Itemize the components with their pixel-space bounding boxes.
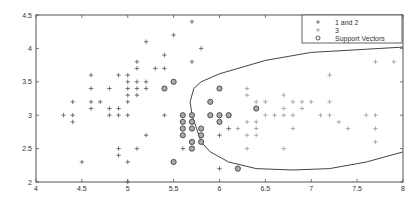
support-vector-marker xyxy=(208,99,213,104)
y-tick-label: 3.5 xyxy=(22,78,32,85)
support-vector-marker xyxy=(180,126,185,131)
support-vector-marker xyxy=(180,113,185,118)
support-vector-marker xyxy=(226,113,231,118)
support-vector-marker xyxy=(162,86,167,91)
x-tick-label: 4.5 xyxy=(77,185,87,192)
support-vector-marker xyxy=(199,133,204,138)
x-tick-label: 7.5 xyxy=(352,185,362,192)
support-vector-marker xyxy=(217,86,222,91)
y-tick-label: 2 xyxy=(28,179,32,186)
x-tick-label: 6 xyxy=(218,185,222,192)
y-tick-label: 2.5 xyxy=(22,145,32,152)
support-vector-marker xyxy=(254,106,259,111)
support-vector-marker xyxy=(171,79,176,84)
support-vector-marker xyxy=(189,139,194,144)
legend-label: Support Vectors xyxy=(335,35,385,43)
legend-label: 1 and 2 xyxy=(335,19,358,26)
support-vector-marker xyxy=(217,113,222,118)
support-vector-marker xyxy=(199,126,204,131)
support-vector-marker xyxy=(189,126,194,131)
support-vector-marker xyxy=(189,119,194,124)
support-vector-marker xyxy=(180,119,185,124)
support-vector-marker xyxy=(208,113,213,118)
x-tick-label: 5.5 xyxy=(169,185,179,192)
support-vector-marker xyxy=(180,133,185,138)
x-tick-label: 7 xyxy=(309,185,313,192)
legend-label: 3 xyxy=(335,27,339,34)
y-tick-label: 4 xyxy=(28,45,32,52)
x-tick-label: 4 xyxy=(34,185,38,192)
x-tick-label: 5 xyxy=(126,185,130,192)
support-vector-marker xyxy=(199,139,204,144)
x-tick-label: 6.5 xyxy=(261,185,271,192)
y-tick-label: 3 xyxy=(28,112,32,119)
support-vector-marker xyxy=(217,119,222,124)
legend: 1 and 23Support Vectors xyxy=(302,15,402,43)
support-vector-marker xyxy=(171,159,176,164)
support-vector-marker xyxy=(189,113,194,118)
x-tick-label: 8 xyxy=(401,185,405,192)
y-tick-label: 4.5 xyxy=(22,12,32,19)
svm-scatter-chart: 44.555.566.577.5822.533.544.5 1 and 23Su… xyxy=(0,0,418,200)
support-vector-marker xyxy=(235,166,240,171)
support-vector-marker xyxy=(189,146,194,151)
